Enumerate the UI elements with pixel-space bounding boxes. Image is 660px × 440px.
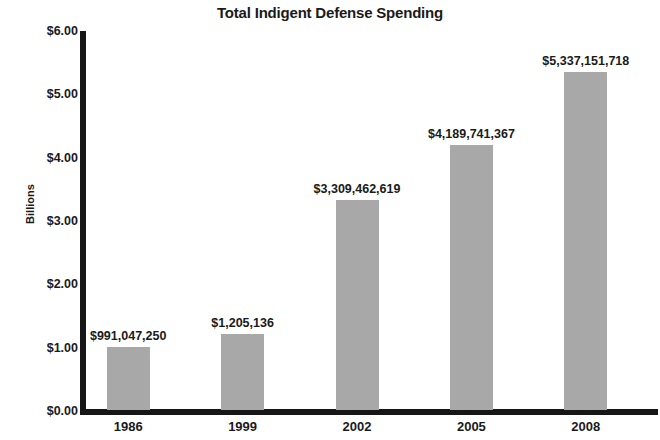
bar-chart: Total Indigent Defense Spending Billions… — [0, 0, 660, 440]
bar — [221, 334, 264, 410]
x-axis-tick-labels: 19861999200220052008 — [86, 419, 658, 440]
chart-title: Total Indigent Defense Spending — [0, 4, 660, 21]
bar — [450, 145, 493, 410]
x-axis-tick-label: 1999 — [228, 419, 257, 434]
bar-value-label: $3,309,462,619 — [314, 182, 401, 196]
bar-value-label: $1,205,136 — [211, 316, 274, 330]
bar — [336, 200, 379, 410]
bar-value-label: $991,047,250 — [90, 329, 166, 343]
y-axis-tick-label: $5.00 — [6, 87, 78, 101]
x-axis-tick-label: 2008 — [571, 419, 600, 434]
y-axis-tick-label: $4.00 — [6, 151, 78, 165]
x-axis-tick-label: 2002 — [343, 419, 372, 434]
y-axis-tick-label: $3.00 — [6, 214, 78, 228]
x-axis-tick-label: 1986 — [114, 419, 143, 434]
bar — [564, 72, 607, 410]
y-axis-tick-label: $1.00 — [6, 341, 78, 355]
bar-value-label: $4,189,741,367 — [428, 127, 515, 141]
y-axis-tick-labels: $0.00$1.00$2.00$3.00$4.00$5.00$6.00 — [0, 0, 78, 440]
y-axis-tick-label: $6.00 — [6, 24, 78, 38]
y-axis-tick-label: $2.00 — [6, 277, 78, 291]
x-axis-tick-label: 2005 — [457, 419, 486, 434]
y-axis-tick-label: $0.00 — [6, 404, 78, 418]
bar-value-label: $5,337,151,718 — [542, 54, 629, 68]
bar — [107, 347, 150, 410]
bars-layer: $991,047,250$1,205,136$3,309,462,619$4,1… — [86, 31, 658, 410]
